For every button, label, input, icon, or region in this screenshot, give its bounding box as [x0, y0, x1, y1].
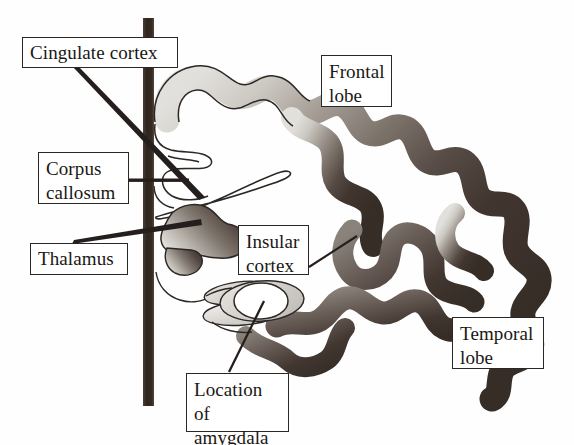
brain-coronal-section-figure: Cingulate cortex Corpus callosum Thalamu… [0, 0, 574, 445]
amygdala-core-circle [234, 283, 288, 319]
cortex-ribbon-posterior-fold [445, 213, 484, 271]
leader-corpus-callosum [129, 179, 189, 182]
label-corpus-callosum[interactable]: Corpus callosum [38, 152, 129, 204]
label-temporal-lobe[interactable]: Temporal lobe [452, 317, 544, 369]
label-thalamus[interactable]: Thalamus [30, 243, 128, 275]
thalamus-inferior-lobe [165, 248, 202, 275]
label-frontal-lobe[interactable]: Frontal lobe [321, 55, 392, 107]
label-location-of-amygdala[interactable]: Location of amygdala [186, 373, 289, 432]
label-insular-cortex[interactable]: Insular cortex [238, 225, 309, 275]
label-cingulate-cortex[interactable]: Cingulate cortex [22, 37, 178, 68]
midline-bar [143, 18, 154, 406]
hypothalamic-contour [156, 272, 211, 302]
